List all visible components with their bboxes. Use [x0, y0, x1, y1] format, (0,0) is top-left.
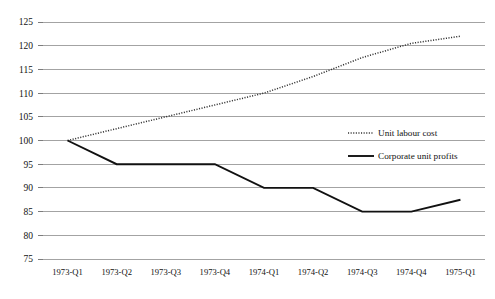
x-axis-tick-label: 1975-Q1: [445, 267, 476, 277]
x-axis-tick-label: 1973-Q2: [101, 267, 132, 277]
legend-label: Unit labour cost: [378, 128, 438, 138]
y-axis-tick-label: 110: [19, 89, 33, 99]
x-axis-tick-label: 1974-Q1: [249, 267, 280, 277]
y-axis-tick-label: 80: [24, 231, 34, 241]
chart-canvas: 7580859095100105110115120125 1973-Q11973…: [0, 0, 495, 299]
series-line-unit-labour-cost: [68, 36, 461, 140]
y-axis-tick-label: 75: [24, 254, 34, 264]
x-axis-tick-label: 1973-Q4: [200, 267, 231, 277]
y-axis-tick-label: 115: [19, 65, 33, 75]
x-axis-tick-label: 1973-Q3: [150, 267, 181, 277]
y-axis-tick-label: 90: [24, 183, 34, 193]
x-axis-tick-label: 1974-Q4: [396, 267, 427, 277]
data-series: [68, 36, 461, 211]
line-chart: 7580859095100105110115120125 1973-Q11973…: [0, 0, 495, 299]
y-axis-tick-label: 120: [19, 41, 34, 51]
x-axis-tick-label: 1973-Q1: [52, 267, 83, 277]
chart-legend: Unit labour costCorporate unit profits: [348, 128, 458, 161]
y-axis-tick-labels: 7580859095100105110115120125: [19, 17, 34, 264]
x-axis-tick-labels: 1973-Q11973-Q21973-Q31973-Q41974-Q11974-…: [52, 267, 475, 277]
y-axis-tick-label: 85: [24, 207, 34, 217]
gridlines: [43, 22, 485, 259]
y-axis-tick-label: 125: [19, 17, 34, 27]
y-axis-tick-label: 100: [19, 136, 34, 146]
legend-label: Corporate unit profits: [378, 151, 458, 161]
axis-tickmarks: [38, 22, 43, 259]
x-axis-tick-label: 1974-Q3: [347, 267, 378, 277]
y-axis-tick-label: 95: [24, 160, 34, 170]
y-axis-tick-label: 105: [19, 112, 34, 122]
x-axis-tick-label: 1974-Q2: [298, 267, 329, 277]
